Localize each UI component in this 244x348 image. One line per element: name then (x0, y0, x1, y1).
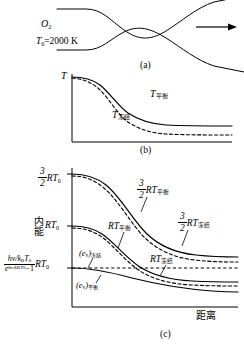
panel-a-caption: (a) (140, 61, 151, 71)
stagnation-temperature-label: T0=2000 K (36, 37, 78, 48)
panel-b-label-equilibrium: T平衡 (150, 89, 168, 99)
panel-c-ytick-three-halves-rt0: 32RT0 (38, 166, 61, 189)
panel-c-x-axis-label: 距离 (196, 311, 216, 321)
panel-c-y-axis-label: 内能 (32, 216, 42, 236)
nozzle-upper-wall (57, 0, 244, 38)
panel-c-ytick-vibrational-rt0: hν/kBT0 ehν/kBT0−1 RT0 (4, 255, 49, 273)
panel-b-label-frozen: T冻结 (112, 110, 130, 120)
panel-c-label-total-equilibrium: 32RT平衡 (137, 178, 169, 201)
leader-rt-equilibrium (118, 232, 124, 248)
panel-b-caption: (b) (140, 146, 151, 156)
panel-b-curve-equilibrium (72, 77, 232, 126)
panel-c-ytick-rt0: RT0 (45, 221, 59, 232)
panel-c-label-rt-equilibrium: RT平衡 (108, 222, 131, 232)
leader-rt-frozen (160, 265, 166, 276)
panel-c-label-vib-equilibrium: (ev)平衡 (76, 281, 98, 291)
flow-direction-arrow (196, 23, 237, 30)
panel-c-label-vib-frozen: (ev)冻结 (79, 249, 101, 259)
species-label-o2: O2 (41, 19, 51, 30)
panel-c-caption: (c) (160, 330, 171, 340)
panel-c-label-rt-frozen: RT冻结 (150, 255, 173, 265)
figure-canvas (0, 0, 244, 348)
panel-b-temperature (72, 74, 232, 142)
panel-c-label-total-frozen: 32RT冻结 (178, 211, 210, 234)
leader-vib-frozen (88, 258, 93, 268)
panel-b-y-axis-label: T (61, 71, 67, 81)
